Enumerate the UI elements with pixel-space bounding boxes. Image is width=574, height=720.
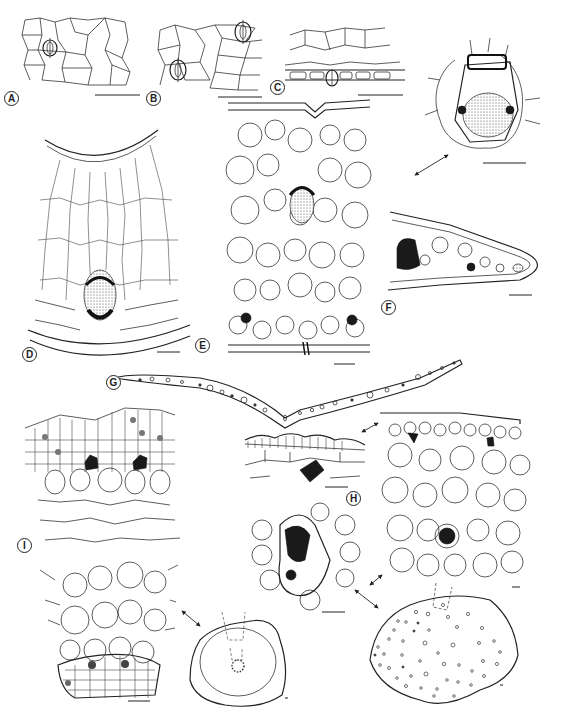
panel-label-c: C xyxy=(270,80,285,95)
arrow-h-epidermis xyxy=(362,423,378,432)
panel-label-d: D xyxy=(22,347,37,362)
panel-label-f: F xyxy=(381,300,396,315)
panel-c-drawing xyxy=(285,28,405,86)
panel-a-drawing xyxy=(22,18,130,85)
panel-label-g: G xyxy=(106,375,121,390)
panel-i-lower-drawing xyxy=(40,562,178,698)
panel-label-h: H xyxy=(346,491,361,506)
figure-plate: A B C D E F G H I xyxy=(0,0,574,720)
panel-i-outline-drawing xyxy=(190,612,286,706)
panel-label-b: B xyxy=(146,91,161,106)
panel-h-epidermis-drawing xyxy=(245,434,365,482)
arrow-h-bundle xyxy=(355,590,378,608)
panel-g-drawing xyxy=(115,360,462,428)
panel-h-bundle-drawing xyxy=(252,503,360,610)
panel-d-drawing xyxy=(28,130,190,355)
arrow-h-section xyxy=(370,575,382,585)
panel-label-i: I xyxy=(17,538,32,553)
panel-e-drawing xyxy=(226,100,371,355)
panel-h-section-drawing xyxy=(380,413,530,577)
arrow-f-detail xyxy=(415,155,448,175)
plate-drawing xyxy=(0,0,574,720)
panel-f-drawing xyxy=(388,212,538,290)
panel-f-bundle-detail xyxy=(425,38,540,148)
arrow-i xyxy=(182,611,200,626)
panel-label-e: E xyxy=(195,338,210,353)
panel-b-drawing xyxy=(158,20,262,90)
panel-h-outline-drawing xyxy=(370,583,518,703)
panel-i-drawing xyxy=(25,408,180,542)
panel-label-a: A xyxy=(4,91,19,106)
